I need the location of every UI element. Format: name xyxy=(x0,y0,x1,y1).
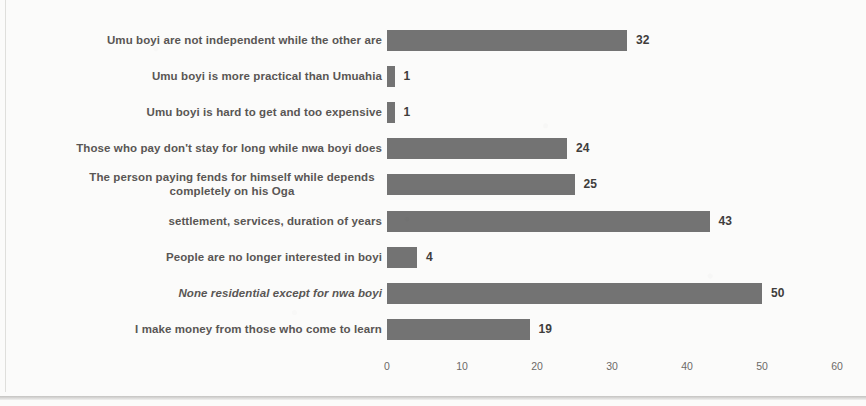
category-label-7: None residential except for nwa boyi xyxy=(178,286,382,300)
bar-value-7: 50 xyxy=(771,283,784,304)
bar-6 xyxy=(387,247,417,268)
bar-value-1: 1 xyxy=(404,66,411,87)
bar-value-8: 19 xyxy=(539,319,552,340)
bar-5 xyxy=(387,211,710,232)
bar-value-2: 1 xyxy=(404,102,411,123)
bar-1 xyxy=(387,66,395,87)
category-label-1: Umu boyi is more practical than Umuahia xyxy=(152,69,382,83)
bar-value-0: 32 xyxy=(636,30,649,51)
bar-7 xyxy=(387,283,762,304)
bar-value-6: 4 xyxy=(426,247,433,268)
category-label-0: Umu boyi are not independent while the o… xyxy=(107,33,382,47)
x-tick-label-1: 10 xyxy=(447,360,477,372)
bar-value-5: 43 xyxy=(719,211,732,232)
x-tick-label-3: 30 xyxy=(597,360,627,372)
plot-area: Umu boyi are not independent while the o… xyxy=(0,0,866,406)
bar-value-4: 25 xyxy=(584,174,597,195)
x-tick-label-6: 60 xyxy=(822,360,852,372)
bar-3 xyxy=(387,138,567,159)
x-tick-label-0: 0 xyxy=(372,360,402,372)
bar-chart-figure: Umu boyi are not independent while the o… xyxy=(0,0,866,406)
bar-4 xyxy=(387,174,575,195)
bar-2 xyxy=(387,102,395,123)
bar-value-3: 24 xyxy=(576,138,589,159)
x-tick-label-4: 40 xyxy=(672,360,702,372)
category-label-3: Those who pay don't stay for long while … xyxy=(76,141,382,155)
category-label-8: I make money from those who come to lear… xyxy=(135,322,382,336)
category-label-5: settlement, services, duration of years xyxy=(168,214,382,228)
x-tick-label-2: 20 xyxy=(522,360,552,372)
x-tick-label-5: 50 xyxy=(747,360,777,372)
bar-0 xyxy=(387,30,627,51)
bar-8 xyxy=(387,319,530,340)
category-label-2: Umu boyi is hard to get and too expensiv… xyxy=(147,105,382,119)
category-label-4: The person paying fends for himself whil… xyxy=(82,170,382,198)
category-label-6: People are no longer interested in boyi xyxy=(166,250,382,264)
